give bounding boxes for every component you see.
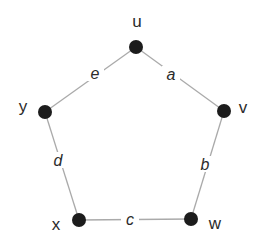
vertex-x: [72, 213, 86, 227]
vertex-y: [38, 105, 52, 119]
vertex-w: [184, 212, 198, 226]
vertex-v: [217, 104, 231, 118]
edge-label-e: e: [91, 65, 100, 82]
vertex-label-v: v: [239, 98, 248, 117]
edge-label-b: b: [201, 156, 210, 173]
vertex-label-y: y: [19, 97, 28, 116]
vertex-label-x: x: [52, 215, 61, 234]
graph-svg: abcdeuvwxy: [0, 0, 260, 240]
vertex-u: [129, 40, 143, 54]
edge-label-a: a: [167, 66, 176, 83]
vertex-label-w: w: [208, 214, 222, 233]
edge-label-c: c: [126, 211, 134, 228]
pentagon-graph-figure: abcdeuvwxy: [0, 0, 260, 240]
vertex-label-u: u: [132, 12, 141, 31]
edge-label-d: d: [54, 152, 64, 169]
